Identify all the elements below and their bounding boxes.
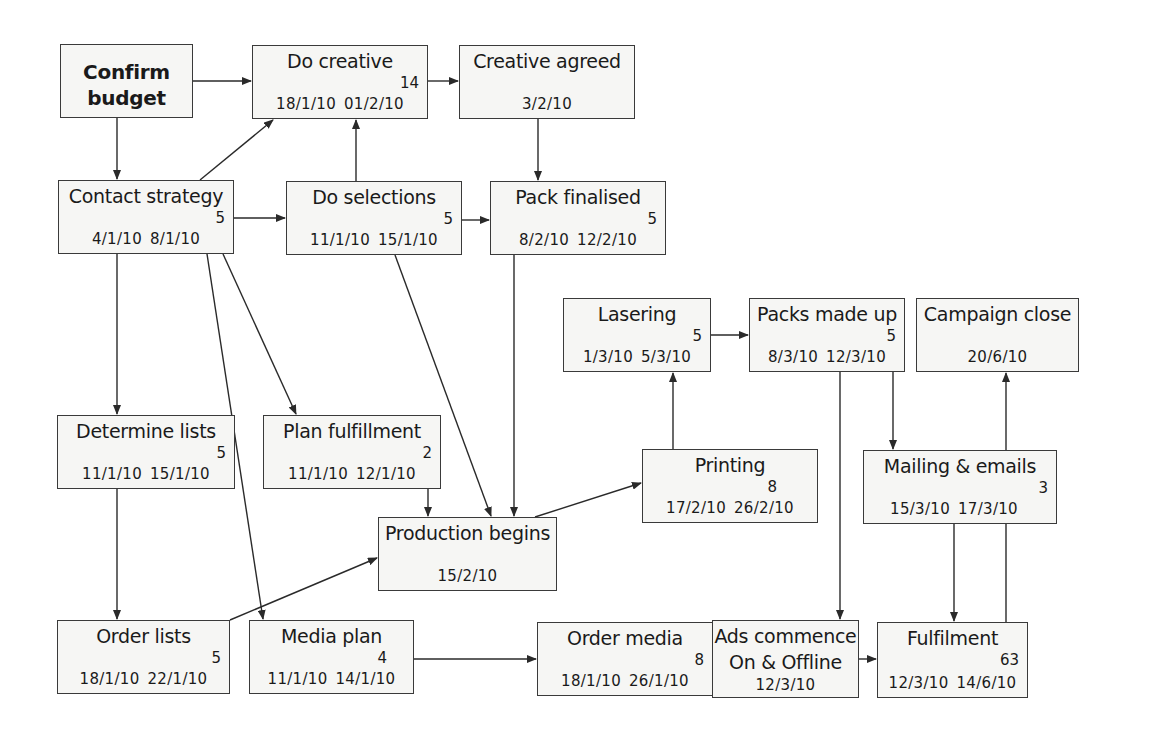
node-order-lists[interactable]: Order lists 5 18/1/1022/1/10: [57, 620, 230, 694]
node-dates: 1/3/105/3/10: [564, 348, 710, 366]
node-fulfilment[interactable]: Fulfilment 63 12/3/1014/6/10: [877, 622, 1028, 698]
node-title: Plan fulfillment: [264, 420, 440, 442]
node-duration: 2: [422, 444, 432, 462]
node-title: Lasering: [564, 303, 710, 325]
node-duration: 14: [400, 74, 419, 92]
node-title: Creative agreed: [460, 50, 634, 72]
node-dates: 17/2/1026/2/10: [643, 499, 817, 517]
milestone-date: 12/3/10: [756, 676, 816, 694]
node-title: Printing: [643, 454, 817, 476]
node-production-begins[interactable]: Production begins 15/2/10: [378, 517, 557, 591]
end-date: 26/2/10: [734, 499, 794, 517]
end-date: 8/1/10: [150, 230, 200, 248]
end-date: 15/1/10: [378, 231, 438, 249]
node-title: Order media: [538, 627, 712, 649]
node-duration: 5: [443, 210, 453, 228]
node-do-selections[interactable]: Do selections 5 11/1/1015/1/10: [286, 181, 462, 255]
node-dates: 15/3/1017/3/10: [864, 500, 1044, 518]
node-title: Mailing & emails: [864, 455, 1056, 477]
node-creative-agreed[interactable]: Creative agreed 3/2/10: [459, 45, 635, 119]
start-date: 8/2/10: [519, 231, 569, 249]
start-date: 15/3/10: [890, 500, 950, 518]
node-title: Do creative: [253, 50, 427, 72]
node-duration: 5: [216, 444, 226, 462]
node-title: Ads commence On & Offline: [713, 623, 858, 675]
node-title: Determine lists: [58, 420, 234, 442]
node-packs-made-up[interactable]: Packs made up 5 8/3/1012/3/10: [749, 298, 905, 372]
node-confirm-budget[interactable]: Confirm budget: [60, 44, 193, 118]
node-plan-fulfillment[interactable]: Plan fulfillment 2 11/1/1012/1/10: [263, 415, 441, 489]
end-date: 22/1/10: [148, 670, 208, 688]
node-dates: 12/3/1014/6/10: [878, 674, 1027, 692]
node-dates: 8/2/1012/2/10: [491, 231, 665, 249]
start-date: 11/1/10: [288, 465, 348, 483]
node-ads-commence[interactable]: Ads commence On & Offline 12/3/10: [712, 620, 859, 698]
node-duration: 5: [886, 327, 896, 345]
milestone-date: 15/2/10: [438, 567, 498, 585]
end-date: 12/1/10: [356, 465, 416, 483]
start-date: 4/1/10: [92, 230, 142, 248]
node-pack-finalised[interactable]: Pack finalised 5 8/2/1012/2/10: [490, 181, 666, 255]
node-title: Contact strategy: [59, 185, 233, 207]
node-duration: 8: [694, 651, 704, 669]
start-date: 1/3/10: [583, 348, 633, 366]
node-dates: 11/1/1015/1/10: [58, 465, 234, 483]
milestone-date: 3/2/10: [522, 95, 572, 113]
node-duration: 5: [692, 327, 702, 345]
start-date: 18/1/10: [561, 672, 621, 690]
node-duration: 3: [1038, 479, 1048, 497]
node-dates: 4/1/108/1/10: [59, 230, 233, 248]
node-determine-lists[interactable]: Determine lists 5 11/1/1015/1/10: [57, 415, 235, 489]
node-duration: 8: [767, 478, 777, 496]
end-date: 26/1/10: [629, 672, 689, 690]
start-date: 18/1/10: [276, 95, 336, 113]
node-order-media[interactable]: Order media 8 18/1/1026/1/10: [537, 622, 713, 696]
start-date: 8/3/10: [768, 348, 818, 366]
start-date: 18/1/10: [80, 670, 140, 688]
edge-contact-strategy-do-creative: [200, 120, 273, 180]
node-title: Fulfilment: [878, 627, 1027, 649]
end-date: 12/2/10: [577, 231, 637, 249]
node-printing[interactable]: Printing 8 17/2/1026/2/10: [642, 449, 818, 523]
edge-order-lists-production-begins: [230, 558, 377, 620]
end-date: 15/1/10: [150, 465, 210, 483]
node-title: Packs made up: [750, 303, 904, 325]
end-date: 14/6/10: [957, 674, 1017, 692]
start-date: 11/1/10: [310, 231, 370, 249]
node-dates: 18/1/1026/1/10: [538, 672, 712, 690]
end-date: 01/2/10: [344, 95, 404, 113]
node-title-line: Ads commence: [713, 623, 858, 649]
node-contact-strategy[interactable]: Contact strategy 5 4/1/108/1/10: [58, 180, 234, 254]
start-date: 12/3/10: [889, 674, 949, 692]
node-campaign-close[interactable]: Campaign close 20/6/10: [916, 298, 1079, 372]
node-title-line: On & Offline: [713, 649, 858, 675]
node-dates: 3/2/10: [460, 95, 634, 113]
end-date: 17/3/10: [958, 500, 1018, 518]
node-title: Campaign close: [917, 303, 1078, 325]
node-do-creative[interactable]: Do creative 14 18/1/1001/2/10: [252, 45, 428, 119]
critical-path-diagram: Confirm budget Do creative 14 18/1/1001/…: [0, 0, 1161, 729]
start-date: 11/1/10: [82, 465, 142, 483]
start-date: 17/2/10: [666, 499, 726, 517]
node-dates: 12/3/10: [713, 676, 858, 694]
edge-production-begins-printing: [535, 483, 641, 517]
node-title-line: budget: [61, 85, 192, 111]
node-title: Media plan: [250, 625, 413, 647]
node-dates: 8/3/1012/3/10: [750, 348, 904, 366]
node-dates: 18/1/1022/1/10: [58, 670, 229, 688]
node-duration: 5: [215, 209, 225, 227]
node-mailing-emails[interactable]: Mailing & emails 3 15/3/1017/3/10: [863, 450, 1057, 524]
node-media-plan[interactable]: Media plan 4 11/1/1014/1/10: [249, 620, 414, 694]
node-duration: 5: [647, 210, 657, 228]
node-dates: 15/2/10: [379, 567, 556, 585]
node-lasering[interactable]: Lasering 5 1/3/105/3/10: [563, 298, 711, 372]
node-dates: 11/1/1014/1/10: [250, 670, 413, 688]
start-date: 11/1/10: [268, 670, 328, 688]
node-dates: 11/1/1012/1/10: [264, 465, 440, 483]
node-title: Do selections: [287, 186, 461, 208]
node-title-line: Confirm: [61, 59, 192, 85]
node-title: Pack finalised: [491, 186, 665, 208]
edge-contact-strategy-plan-fulfillment: [223, 254, 296, 414]
node-duration: 63: [1000, 651, 1019, 669]
node-duration: 5: [211, 649, 221, 667]
